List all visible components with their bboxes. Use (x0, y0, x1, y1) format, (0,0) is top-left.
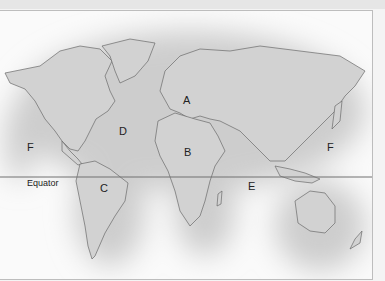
label-d: D (119, 126, 127, 137)
map-frame (0, 10, 373, 280)
label-f-left: F (27, 142, 34, 153)
label-c: C (100, 183, 108, 194)
label-b: B (184, 147, 191, 158)
label-e: E (248, 181, 255, 192)
world-map-graphic (0, 11, 372, 279)
label-a: A (183, 95, 190, 106)
top-bar (0, 0, 385, 9)
label-f-right: F (327, 142, 334, 153)
equator-label: Equator (27, 178, 59, 188)
